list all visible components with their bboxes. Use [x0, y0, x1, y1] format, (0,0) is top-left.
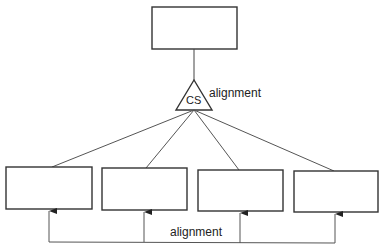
child-box-2	[102, 168, 187, 210]
child-box-1	[6, 167, 92, 209]
top-box	[152, 7, 237, 49]
diagram-svg	[0, 0, 383, 252]
fan-line-1	[52, 110, 194, 167]
fan-line-2	[146, 110, 194, 168]
cs-label: CS	[186, 94, 201, 106]
bottom-alignment-label: alignment	[170, 225, 222, 239]
child-box-4	[294, 171, 378, 212]
fan-line-4	[194, 110, 334, 171]
alignment-bus	[49, 242, 335, 243]
fan-line-3	[194, 110, 239, 170]
child-box-3	[198, 170, 283, 211]
diagram-canvas: CS alignment alignment	[0, 0, 383, 252]
top-alignment-label: alignment	[209, 86, 261, 100]
